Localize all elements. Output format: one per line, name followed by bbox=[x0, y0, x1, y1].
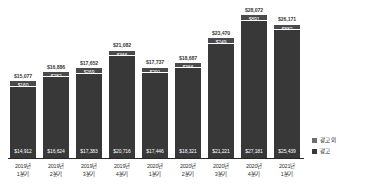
bar-segment-ad-label: $18,321 bbox=[179, 149, 196, 154]
tick-year: 2020년 bbox=[241, 162, 267, 170]
legend-label: 광고 외 bbox=[320, 136, 336, 144]
bar-segment-ad[interactable]: $17,446 bbox=[142, 73, 168, 158]
bar-segment-ad-label: $27,181 bbox=[245, 149, 262, 154]
x-axis-tick-label: 2019년4분기 bbox=[109, 162, 135, 178]
bar-stack[interactable]: $249$21,221 bbox=[208, 38, 234, 158]
bar-segment-ad[interactable]: $16,624 bbox=[43, 77, 69, 158]
plot-area: $15,077$160$14,912$16,886$282$16,624$17,… bbox=[10, 6, 300, 158]
bar-segment-ad[interactable]: $25,439 bbox=[274, 30, 300, 158]
bar-total-label: $16,886 bbox=[47, 65, 65, 70]
x-axis-tick-label: 2019년3분기 bbox=[76, 162, 102, 178]
bar-segment-ad-label: $14,912 bbox=[14, 149, 31, 154]
legend-item[interactable]: 광고 bbox=[312, 147, 336, 155]
tick-quarter: 1분기 bbox=[10, 170, 36, 178]
bar-segment-ad-label: $25,439 bbox=[278, 149, 295, 154]
legend-swatch-icon bbox=[312, 138, 317, 143]
bar-total-label: $18,687 bbox=[179, 56, 197, 61]
tick-quarter: 1분기 bbox=[142, 170, 168, 178]
bar-total-label: $21,082 bbox=[113, 43, 131, 48]
x-axis-tick-label: 2019년1분기 bbox=[10, 162, 36, 178]
bar-stack[interactable]: $366$18,321 bbox=[175, 63, 201, 158]
bar-segment-ad-label: $17,383 bbox=[80, 149, 97, 154]
bar-total-label: $17,652 bbox=[80, 61, 98, 66]
bar-segment-ad-label: $21,221 bbox=[212, 149, 229, 154]
bar-segment-ad[interactable]: $20,716 bbox=[109, 56, 135, 158]
x-axis-tick-label: 2019년2분기 bbox=[43, 162, 69, 178]
tick-year: 2019년 bbox=[43, 162, 69, 170]
x-axis-tick-label: 2020년2분기 bbox=[175, 162, 201, 178]
bar-group[interactable]: $28,072$891$27,181 bbox=[241, 6, 267, 158]
bar-stack[interactable]: $291$17,446 bbox=[142, 68, 168, 158]
tick-quarter: 4분기 bbox=[109, 170, 135, 178]
bar-stack[interactable]: $366$20,716 bbox=[109, 51, 135, 158]
bar-stack[interactable]: $160$14,912 bbox=[10, 81, 36, 158]
bar-group[interactable]: $21,082$366$20,716 bbox=[109, 6, 135, 158]
bar-group[interactable]: $23,470$249$21,221 bbox=[208, 6, 234, 158]
x-axis-tick-label: 2020년1분기 bbox=[142, 162, 168, 178]
legend-swatch-icon bbox=[312, 149, 317, 154]
x-axis-tick-label: 2020년3분기 bbox=[208, 162, 234, 178]
tick-quarter: 3분기 bbox=[208, 170, 234, 178]
tick-year: 2020년 bbox=[208, 162, 234, 170]
bar-segment-ad[interactable]: $14,912 bbox=[10, 87, 36, 158]
tick-year: 2019년 bbox=[76, 162, 102, 170]
bar-segment-ad[interactable]: $18,321 bbox=[175, 68, 201, 158]
x-axis-category-labels: 2019년1분기2019년2분기2019년3분기2019년4분기2020년1분기… bbox=[10, 162, 300, 184]
bar-segment-ad-label: $17,446 bbox=[146, 149, 163, 154]
chart-legend: 광고 외광고 bbox=[312, 136, 336, 155]
legend-label: 광고 bbox=[320, 147, 330, 155]
bar-stack[interactable]: $882$25,439 bbox=[274, 25, 300, 158]
bar-total-label: $15,077 bbox=[14, 74, 32, 79]
x-axis-tick-label: 2020년4분기 bbox=[241, 162, 267, 178]
tick-year: 2020년 bbox=[175, 162, 201, 170]
x-axis-tick-label: 2021년1분기 bbox=[274, 162, 300, 178]
bar-segment-ad-label: $20,716 bbox=[113, 149, 130, 154]
bar-total-label: $26,171 bbox=[278, 17, 296, 22]
tick-quarter: 4분기 bbox=[241, 170, 267, 178]
legend-item[interactable]: 광고 외 bbox=[312, 136, 336, 144]
tick-quarter: 1분기 bbox=[274, 170, 300, 178]
bar-group[interactable]: $15,077$160$14,912 bbox=[10, 6, 36, 158]
bar-stack[interactable]: $269$17,383 bbox=[76, 68, 102, 158]
bar-group[interactable]: $17,652$269$17,383 bbox=[76, 6, 102, 158]
tick-year: 2021년 bbox=[274, 162, 300, 170]
bar-segment-ad[interactable]: $17,383 bbox=[76, 74, 102, 158]
bar-group[interactable]: $17,737$291$17,446 bbox=[142, 6, 168, 158]
bar-total-label: $17,737 bbox=[146, 60, 164, 65]
bar-total-label: $23,470 bbox=[212, 31, 230, 36]
bar-segment-ad-label: $16,624 bbox=[47, 149, 64, 154]
bar-total-label: $28,072 bbox=[245, 8, 263, 13]
bar-segment-ad[interactable]: $21,221 bbox=[208, 44, 234, 158]
bar-stack[interactable]: $891$27,181 bbox=[241, 15, 267, 158]
bar-segment-ad[interactable]: $27,181 bbox=[241, 21, 267, 159]
tick-quarter: 2분기 bbox=[43, 170, 69, 178]
tick-quarter: 3분기 bbox=[76, 170, 102, 178]
bar-group[interactable]: $26,171$882$25,439 bbox=[274, 6, 300, 158]
tick-year: 2020년 bbox=[142, 162, 168, 170]
stacked-bar-chart: $15,077$160$14,912$16,886$282$16,624$17,… bbox=[0, 0, 375, 190]
tick-year: 2019년 bbox=[109, 162, 135, 170]
bar-stack[interactable]: $282$16,624 bbox=[43, 72, 69, 158]
x-axis-line bbox=[8, 158, 304, 159]
bar-group[interactable]: $18,687$366$18,321 bbox=[175, 6, 201, 158]
bar-group[interactable]: $16,886$282$16,624 bbox=[43, 6, 69, 158]
tick-quarter: 2분기 bbox=[175, 170, 201, 178]
tick-year: 2019년 bbox=[10, 162, 36, 170]
